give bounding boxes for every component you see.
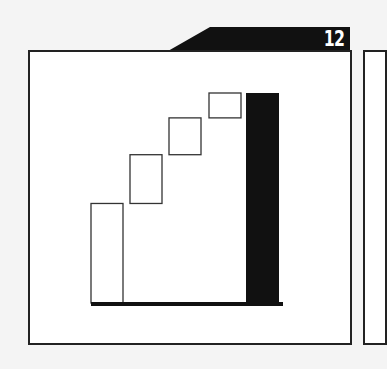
step-bar bbox=[91, 203, 123, 303]
step-bar bbox=[169, 118, 201, 155]
total-bar bbox=[246, 93, 279, 303]
step-bar bbox=[130, 155, 162, 204]
step-bar bbox=[209, 93, 241, 118]
baseline-axis bbox=[91, 302, 283, 306]
